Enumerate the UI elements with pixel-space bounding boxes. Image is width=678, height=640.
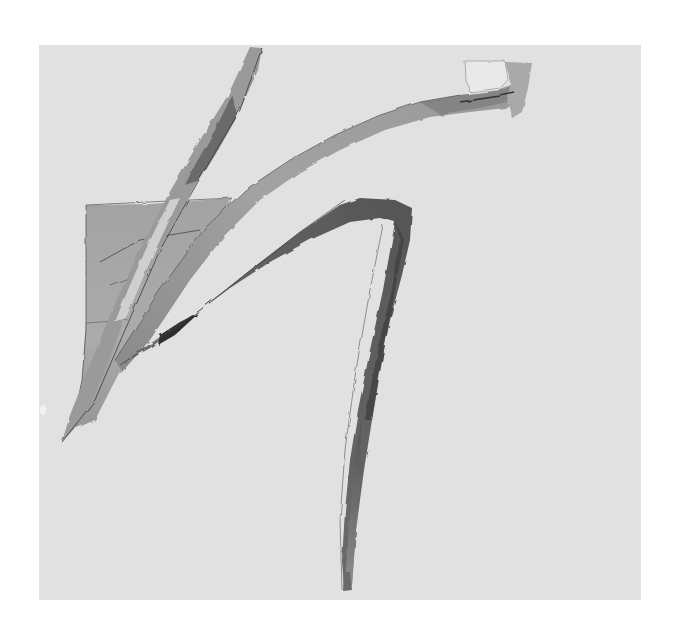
paper-spot: [40, 405, 46, 415]
artwork-photo: [0, 0, 678, 640]
